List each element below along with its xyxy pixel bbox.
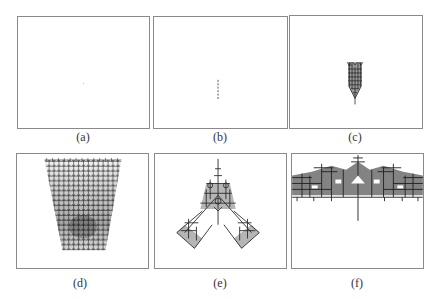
panel-e bbox=[154, 153, 287, 269]
fractal-stem-graphic bbox=[154, 17, 287, 128]
fractal-canopy-graphic bbox=[292, 154, 423, 268]
panel-f bbox=[291, 153, 424, 269]
fractal-cluster-graphic bbox=[290, 16, 422, 128]
panel-b bbox=[153, 16, 288, 129]
panel-a bbox=[17, 16, 150, 129]
panel-b-label: (b) bbox=[190, 130, 250, 144]
panel-d-label: (d) bbox=[50, 276, 110, 290]
fractal-seed-graphic bbox=[18, 17, 149, 128]
panel-c-label: (c) bbox=[325, 130, 385, 144]
fractal-triangle-graphic bbox=[155, 154, 286, 268]
panel-a-label: (a) bbox=[53, 130, 113, 144]
panel-d bbox=[16, 153, 149, 269]
panel-e-label: (e) bbox=[190, 276, 250, 290]
fractal-lattice-graphic bbox=[17, 154, 148, 268]
panel-c bbox=[289, 15, 423, 129]
panel-f-label: (f) bbox=[327, 276, 387, 290]
